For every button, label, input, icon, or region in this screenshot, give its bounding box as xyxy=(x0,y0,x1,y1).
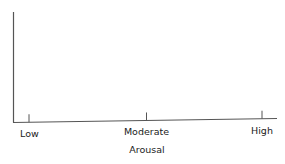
x-tick-label-moderate: Moderate xyxy=(124,126,169,137)
x-tick-labels: LowModerateHigh xyxy=(20,125,273,140)
x-tick-label-low: Low xyxy=(20,128,39,139)
chart: LowModerateHigh Arousal xyxy=(0,0,285,164)
x-axis xyxy=(13,119,277,123)
x-axis-label: Arousal xyxy=(129,144,164,155)
x-tick-label-high: High xyxy=(251,125,273,136)
